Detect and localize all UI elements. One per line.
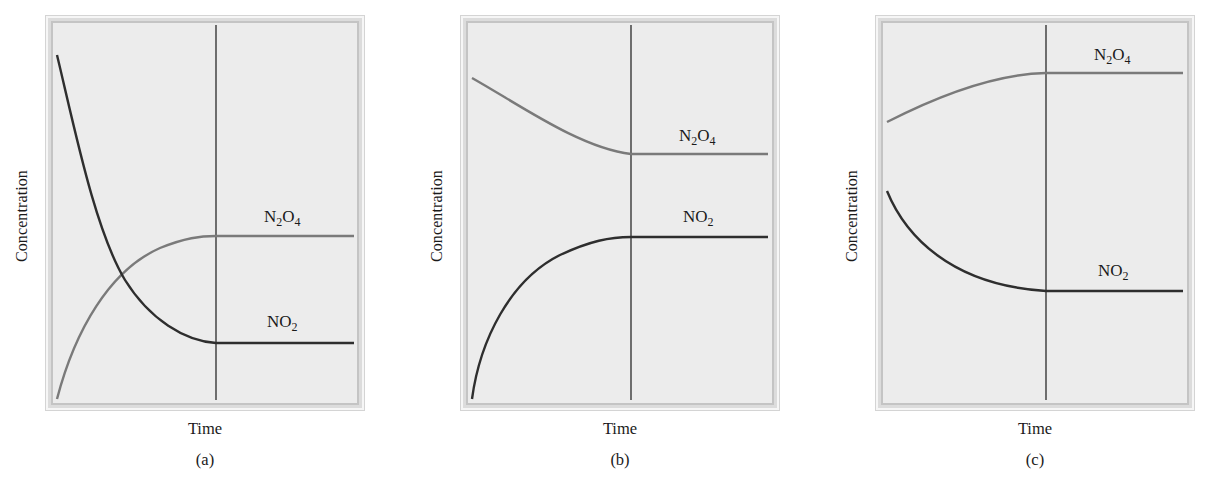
no2-curve [887,191,1183,291]
x-axis-label: Time [985,419,1085,439]
n2o4-label: N2O4 [1094,46,1131,63]
chart-panel-c: N2O4 NO2 Concentration Time (c) [0,0,1205,483]
panel-caption: (c) [1005,450,1065,470]
y-axis-label: Concentration [843,170,861,262]
no2-label: NO2 [1098,262,1129,279]
plot-area [0,0,1205,483]
n2o4-curve [887,73,1183,122]
